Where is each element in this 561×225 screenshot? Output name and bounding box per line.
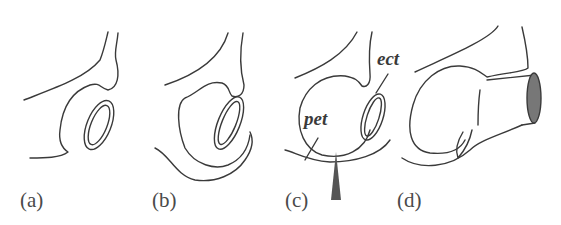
ect-label: ect	[377, 48, 399, 70]
panel-c-ring-inner	[361, 96, 385, 138]
panel-d-drawing	[402, 26, 541, 166]
panel-a-drawing	[24, 32, 120, 158]
panel-label-b: (b)	[152, 188, 177, 213]
panel-label-c: (c)	[285, 188, 308, 213]
pet-leader-line	[305, 138, 318, 160]
panel-b-pouch-contour	[179, 33, 250, 167]
panel-b-ring-inner	[214, 99, 244, 147]
panel-b-ring-outer	[208, 93, 249, 153]
panel-b-lower-contour	[155, 132, 252, 181]
panel-c-ring-outer	[356, 91, 390, 143]
panel-b-outer-contour	[165, 33, 228, 85]
panel-a-ring-inner	[84, 103, 115, 148]
ect-leader-line	[376, 74, 388, 93]
panel-label-a: (a)	[20, 188, 43, 213]
panel-c-drawing	[285, 32, 390, 200]
panel-c-arrow-pointer	[331, 152, 341, 200]
figure-drawing	[0, 0, 561, 225]
panel-c-pouch-contour	[299, 32, 372, 156]
panel-d-tube-opening	[527, 73, 541, 123]
panel-c-lower-contour	[285, 140, 390, 162]
panel-b-drawing	[155, 33, 252, 181]
panel-a-ring-outer	[78, 96, 120, 153]
panel-d-outer-contour	[415, 26, 498, 72]
panel-label-d: (d)	[397, 188, 422, 213]
panel-a-outer-contour	[24, 32, 108, 100]
pet-label: pet	[304, 108, 327, 130]
panel-c-outer-contour	[295, 32, 357, 78]
